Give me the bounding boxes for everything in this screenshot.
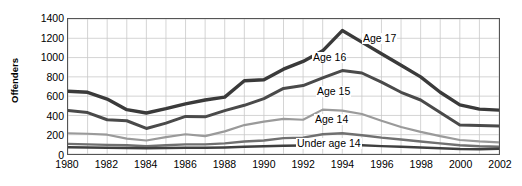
x-tick-label: 1988 [213, 158, 236, 170]
x-tick-label: 1984 [134, 158, 157, 170]
x-tick-label: 1982 [95, 158, 118, 170]
x-tick-label: 1992 [291, 158, 314, 170]
series-label-age-17: Age 17 [362, 33, 397, 44]
x-tick-label: 2000 [449, 158, 472, 170]
x-tick-label: 1996 [370, 158, 393, 170]
series-label-age-15: Age 15 [316, 86, 351, 97]
x-tick-label: 1994 [331, 158, 354, 170]
x-tick-label: 1998 [410, 158, 433, 170]
plot-svg [68, 19, 499, 154]
x-tick-label: 1990 [252, 158, 275, 170]
series-label-age-14: Age 14 [314, 114, 349, 125]
x-tick-label: 1980 [55, 158, 78, 170]
x-tick-label: 1986 [173, 158, 196, 170]
chart-figure: Offenders 0200400600800100012001400 1980… [0, 0, 522, 186]
series-label-age-16: Age 16 [312, 52, 347, 63]
x-tick-label: 2002 [488, 158, 511, 170]
plot-area [67, 18, 500, 155]
series-label-under-age-14: Under age 14 [296, 138, 362, 149]
